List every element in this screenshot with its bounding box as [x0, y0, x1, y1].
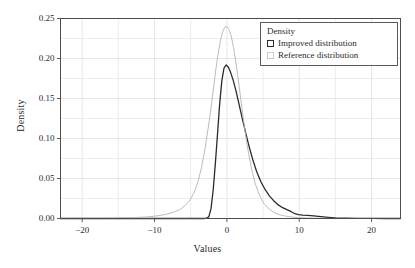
legend-item-reference[interactable]: Reference distribution [267, 50, 392, 61]
x-tick-label: −20 [57, 225, 107, 235]
legend-label-reference: Reference distribution [278, 50, 358, 61]
y-tick-label: 0.00 [11, 213, 55, 223]
legend-swatch-improved [267, 40, 274, 47]
x-tick-label: 10 [274, 225, 324, 235]
chart-figure: 0.000.050.100.150.200.25 −20−1001020 Den… [0, 0, 415, 268]
y-axis-title: Density [15, 66, 26, 166]
legend-label-improved: Improved distribution [278, 38, 357, 49]
y-tick-label: 0.20 [11, 53, 55, 63]
x-axis-title: Values [0, 243, 415, 254]
series-line-improved [61, 65, 401, 219]
legend-title: Density [267, 26, 392, 37]
chart-legend: Density Improved distribution Reference … [260, 22, 398, 66]
x-tick-label: −10 [130, 225, 180, 235]
y-tick-label: 0.25 [11, 13, 55, 23]
x-tick-label: 20 [347, 225, 397, 235]
y-tick-label: 0.05 [11, 173, 55, 183]
legend-swatch-reference [267, 52, 274, 59]
x-tick-label: 0 [202, 225, 252, 235]
legend-item-improved[interactable]: Improved distribution [267, 38, 392, 49]
